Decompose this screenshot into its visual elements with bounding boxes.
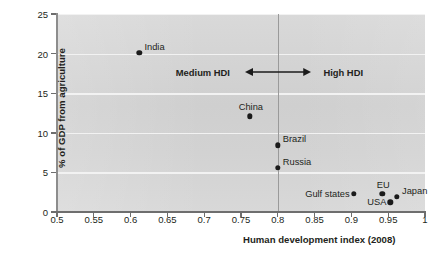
y-tick-5 <box>51 172 56 174</box>
gridline-y-15 <box>57 93 425 94</box>
x-axis-title: Human development index (2008) <box>243 234 395 245</box>
x-tick-label-0.8: 0.8 <box>271 214 284 225</box>
y-tick-label-25: 25 <box>37 9 48 20</box>
data-point-eu[interactable] <box>380 191 385 196</box>
data-label-usa: USA <box>367 197 386 207</box>
x-tick-label-0.9: 0.9 <box>345 214 358 225</box>
gridline-y-25 <box>57 14 425 15</box>
hdi-threshold-line <box>278 14 279 212</box>
data-label-china: China <box>239 102 263 112</box>
data-point-gulf-states[interactable] <box>351 191 356 196</box>
data-label-russia: Russia <box>283 157 311 167</box>
x-tick-label-0.5: 0.5 <box>50 214 63 225</box>
y-tick-label-20: 20 <box>37 48 48 59</box>
x-tick-label-0.75: 0.75 <box>232 214 251 225</box>
hdi-double-arrow <box>245 66 311 77</box>
y-tick-label-15: 15 <box>37 88 48 99</box>
x-tick-label-0.85: 0.85 <box>305 214 324 225</box>
y-tick-label-0: 0 <box>43 207 48 218</box>
plot-background-sheen <box>57 14 425 212</box>
x-tick-label-0.7: 0.7 <box>198 214 211 225</box>
x-tick-label-1: 1 <box>422 214 427 225</box>
data-point-russia[interactable] <box>275 165 280 170</box>
scatter-chart: Medium HDIHigh HDI IndiaChinaBrazilRussi… <box>0 0 444 259</box>
y-tick-label-10: 10 <box>37 127 48 138</box>
high-hdi-label: High HDI <box>323 66 363 77</box>
x-tick-label-0.65: 0.65 <box>158 214 177 225</box>
y-tick-10 <box>51 132 56 134</box>
y-tick-label-5: 5 <box>43 167 48 178</box>
data-point-japan[interactable] <box>394 194 399 199</box>
data-label-japan: Japan <box>402 186 427 196</box>
gridline-y-5 <box>57 172 425 173</box>
medium-hdi-label: Medium HDI <box>176 66 230 77</box>
data-point-brazil[interactable] <box>275 143 280 148</box>
y-tick-25 <box>51 13 56 15</box>
x-tick-label-0.6: 0.6 <box>124 214 137 225</box>
gridline-y-20 <box>57 54 425 55</box>
data-label-india: India <box>144 42 164 52</box>
y-tick-15 <box>51 93 56 95</box>
x-tick-label-0.55: 0.55 <box>85 214 104 225</box>
data-point-china[interactable] <box>247 113 252 118</box>
plot-area: Medium HDIHigh HDI IndiaChinaBrazilRussi… <box>57 14 425 212</box>
data-label-eu: EU <box>377 180 390 190</box>
y-axis-title: % of GDP from agriculture <box>56 48 67 168</box>
data-point-usa[interactable] <box>388 200 393 205</box>
x-tick-label-0.95: 0.95 <box>379 214 398 225</box>
data-label-brazil: Brazil <box>283 134 306 144</box>
y-tick-0 <box>51 211 56 213</box>
y-tick-20 <box>51 53 56 55</box>
data-label-gulf-states: Gulf states <box>305 189 349 199</box>
gridline-y-10 <box>57 133 425 134</box>
